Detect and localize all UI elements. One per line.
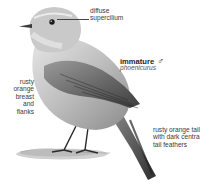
annotation-line: with dark centra [153, 133, 200, 140]
annotation-breast: rusty orange breast and flanks [8, 78, 34, 115]
male-symbol-icon: ♂ [157, 56, 164, 66]
annotation-line: flanks [8, 108, 34, 115]
beak [19, 24, 32, 28]
annotation-line: diffuse [90, 7, 123, 14]
bird-illustration-figure: diffuse supercilium immature ♂ phoenicur… [0, 0, 207, 191]
annotation-line: breast [8, 93, 34, 100]
annotation-line: supercilium [90, 14, 123, 21]
annotation-line: and [8, 100, 34, 107]
annotation-line: rusty [8, 78, 34, 85]
annotation-supercilium: diffuse supercilium [90, 7, 123, 22]
supercilium-pointer-line [57, 19, 89, 20]
annotation-line: rusty orange tail [153, 126, 200, 133]
annotation-line: orange [8, 85, 34, 92]
eye [49, 19, 54, 24]
annotation-tail: rusty orange tail with dark centra tail … [153, 126, 200, 148]
subspecies-label: phoenicurus [120, 64, 156, 71]
annotation-line: tail feathers [153, 141, 200, 148]
